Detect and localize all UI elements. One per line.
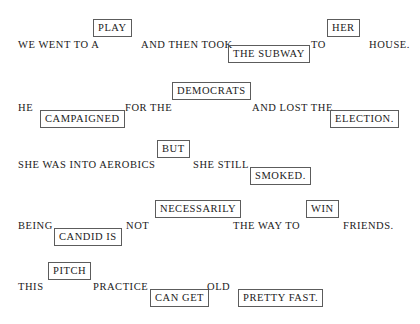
boxed-word: CAN GET [150,289,209,307]
plain-words: BEING [18,219,53,232]
boxed-word: DEMOCRATS [172,82,251,100]
boxed-word: BUT [157,140,190,158]
boxed-word: WIN [306,200,339,218]
boxed-word: NECESSARILY [155,200,241,218]
boxed-word: CAMPAIGNED [40,110,125,128]
boxed-word: ELECTION. [330,110,399,128]
boxed-word: SMOKED. [250,167,311,185]
plain-words: AND LOST THE [252,101,333,114]
plain-words: PRACTICE [93,280,148,293]
typographic-composition: WE WENT TO APLAYAND THEN TOOKTHE SUBWAYT… [0,0,420,324]
boxed-word: CANDID IS [54,228,122,246]
plain-words: THIS [18,280,44,293]
plain-words: OLD [207,280,230,293]
boxed-word: PITCH [48,262,91,280]
plain-words: SHE WAS INTO AEROBICS [18,158,155,171]
plain-words: SHE STILL [193,158,249,171]
boxed-word: PRETTY FAST. [238,289,323,307]
plain-words: THE WAY TO [233,219,300,232]
plain-words: NOT [126,219,149,232]
plain-words: FOR THE [125,101,172,114]
sentence-line: THISPITCHPRACTICECAN GETOLDPRETTY FAST. [0,0,420,58]
plain-words: HE [18,101,33,114]
plain-words: FRIENDS. [343,219,394,232]
